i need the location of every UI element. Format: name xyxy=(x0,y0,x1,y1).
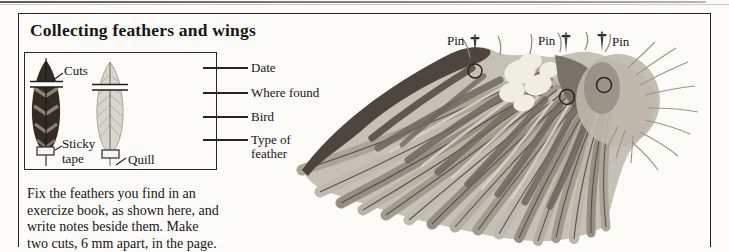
caption-line: two cuts, 6 mm apart, in the page. xyxy=(27,236,267,252)
pin-label: Pin xyxy=(447,33,464,49)
field-tick-line xyxy=(203,92,248,94)
pin-label: Pin xyxy=(538,33,555,49)
dark-feather-illustration xyxy=(30,58,63,166)
cuts-label: Cuts xyxy=(64,63,88,78)
page-top-rule-light xyxy=(0,4,729,5)
page-top-rule xyxy=(0,1,706,3)
caption-line: write notes beside them. Make xyxy=(27,219,267,236)
field-tick-line xyxy=(203,139,248,141)
pin-label: Pin xyxy=(612,34,629,50)
caption-line: exercize book, as shown here, and xyxy=(27,203,267,220)
caption-line: Fix the feathers you find in an xyxy=(27,186,267,203)
wing-illustration xyxy=(280,26,716,246)
field-tick-line xyxy=(203,67,248,69)
page-title: Collecting feathers and wings xyxy=(30,20,256,41)
feather-specimen-illustration xyxy=(24,52,217,170)
caption-paragraph: Fix the feathers you find in an exercize… xyxy=(27,186,267,252)
pin-icon xyxy=(598,31,607,52)
field-label-date: Date xyxy=(251,61,276,75)
field-tick-line xyxy=(203,116,248,118)
quill-label: Quill xyxy=(128,152,155,167)
pin-icon xyxy=(562,32,571,53)
sticky-tape-label: Sticky tape xyxy=(62,136,108,166)
field-label-bird: Bird xyxy=(251,110,274,124)
